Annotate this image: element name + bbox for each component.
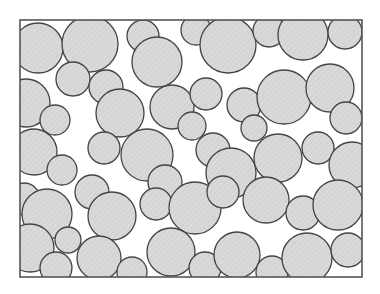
large-circle	[313, 180, 363, 230]
small-circle	[40, 105, 70, 135]
circle-packing-figure	[0, 0, 380, 294]
large-circle	[77, 236, 121, 280]
large-circle	[88, 192, 136, 240]
large-circle	[96, 89, 144, 137]
large-circle	[200, 17, 256, 73]
small-circle	[88, 132, 120, 164]
small-circle	[241, 115, 267, 141]
small-circle	[55, 227, 81, 253]
small-circle	[207, 176, 239, 208]
large-circle	[147, 228, 195, 276]
small-circle	[190, 78, 222, 110]
large-circle	[282, 233, 332, 283]
figure-container	[0, 0, 380, 294]
large-circle	[243, 177, 289, 223]
small-circle	[178, 112, 206, 140]
small-circle	[331, 233, 365, 267]
small-circle	[330, 102, 362, 134]
small-circle	[47, 155, 77, 185]
small-circle	[56, 62, 90, 96]
large-circle	[254, 134, 302, 182]
large-circle	[132, 37, 182, 87]
large-circle	[214, 232, 260, 278]
large-circle	[257, 70, 311, 124]
small-circle	[140, 188, 172, 220]
